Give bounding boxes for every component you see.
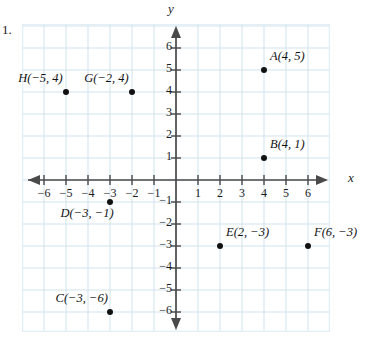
y-tick-label: −2: [142, 215, 172, 230]
y-tick-label: 2: [142, 127, 172, 142]
y-axis-label: y: [168, 1, 174, 17]
coordinate-plane-figure: 1. y x −6−5−4−3−2−1123456654321−1−2−3−4−…: [0, 0, 374, 344]
y-tick-label: 4: [142, 83, 172, 98]
y-tick-label: 6: [142, 39, 172, 54]
y-tick-label: −1: [142, 193, 172, 208]
x-axis-label: x: [348, 170, 354, 186]
point-label-d: D(−3, −1): [61, 206, 114, 221]
y-tick-label: 1: [142, 149, 172, 164]
point-label-b: B(4, 1): [270, 137, 305, 152]
problem-number: 1.: [2, 22, 12, 38]
y-tick-label: 5: [142, 61, 172, 76]
point-label-e: E(2, −3): [226, 225, 269, 240]
y-tick-label: −6: [142, 303, 172, 318]
y-tick-label: −5: [142, 281, 172, 296]
data-points: [22, 24, 330, 332]
point-label-h: H(−5, 4): [18, 71, 63, 86]
plot-area: [22, 24, 330, 332]
point-label-f: F(6, −3): [314, 225, 357, 240]
point-label-c: C(−3, −6): [56, 291, 108, 306]
point-label-a: A(4, 5): [270, 49, 305, 64]
y-tick-label: 3: [142, 105, 172, 120]
y-tick-label: −4: [142, 259, 172, 274]
x-tick-label: 6: [293, 186, 323, 201]
y-tick-label: −3: [142, 237, 172, 252]
point-label-g: G(−2, 4): [84, 71, 129, 86]
